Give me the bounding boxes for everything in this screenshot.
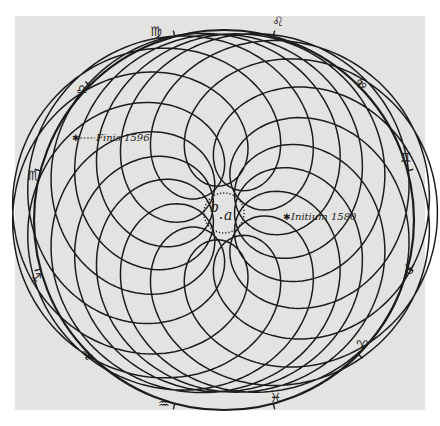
- zodiac-aries-icon: ♈: [356, 338, 368, 353]
- zodiac-sagittarius-icon: ♐: [30, 271, 42, 286]
- mars-orbit-diagram: b a ✱ Finis 1596 ✱ Initium 1580 ♌ ♍ ♎ ♏ …: [0, 0, 440, 426]
- point-b-label: b: [210, 199, 219, 215]
- star-marker-icon: ✱: [283, 212, 291, 222]
- zodiac-capricorn-icon: ♑: [82, 348, 94, 363]
- zodiac-taurus-icon: ♉: [404, 262, 416, 277]
- zodiac-gemini-icon: ♊: [400, 150, 412, 165]
- finis-label: Finis 1596: [95, 132, 150, 143]
- zodiac-pisces-icon: ♓: [270, 390, 282, 405]
- initium-annotation: ✱ Initium 1580: [283, 211, 357, 222]
- finis-annotation: ✱ Finis 1596: [72, 132, 150, 143]
- point-a-label: a: [224, 207, 232, 223]
- zodiac-scorpio-icon: ♏: [28, 168, 40, 183]
- star-marker-icon: ✱: [72, 133, 80, 143]
- zodiac-libra-icon: ♎: [76, 82, 88, 97]
- zodiac-leo-icon: ♌: [272, 14, 284, 29]
- zodiac-aquarius-icon: ♒: [158, 396, 170, 411]
- point-a-dot: [220, 217, 222, 219]
- zodiac-cancer-icon: ♋: [356, 76, 368, 91]
- zodiac-labels: ♌ ♍ ♎ ♏ ♐ ♑ ♒ ♓ ♈ ♉ ♊ ♋: [28, 14, 416, 411]
- zodiac-virgo-icon: ♍: [150, 24, 162, 39]
- initium-label: Initium 1580: [290, 211, 357, 222]
